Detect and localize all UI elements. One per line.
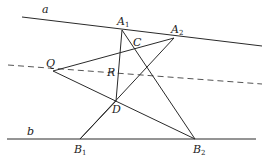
labels-layer: abA1A2CQRDB1B2 — [27, 3, 206, 157]
point-label-a2: A2 — [170, 23, 183, 37]
point-label-b1: B1 — [73, 143, 87, 157]
point-label-b2: B2 — [192, 143, 206, 157]
point-label-d: D — [111, 103, 121, 116]
segment-a1-d — [116, 30, 122, 101]
segment-q-b2 — [53, 71, 195, 139]
point-label-a1: A1 — [116, 15, 129, 29]
segment-d-b1 — [80, 101, 116, 139]
point-label-q: Q — [46, 57, 55, 70]
point-label-c: C — [133, 36, 142, 49]
segments-layer — [53, 30, 195, 139]
geometry-diagram: abA1A2CQRDB1B2 — [0, 0, 265, 159]
point-label-r: R — [106, 66, 115, 79]
line-a — [22, 17, 262, 46]
line-label-a: a — [42, 3, 49, 16]
line-label-b: b — [27, 125, 34, 138]
